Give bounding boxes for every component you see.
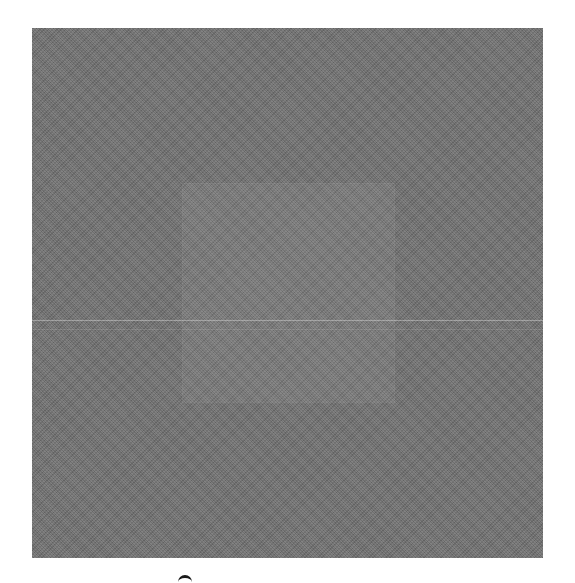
primary-crease-line <box>32 320 543 321</box>
material-swatch <box>32 28 543 558</box>
inner-lighter-patch <box>182 183 395 403</box>
secondary-crease-line <box>32 329 543 330</box>
circle-mark-icon <box>178 575 192 583</box>
